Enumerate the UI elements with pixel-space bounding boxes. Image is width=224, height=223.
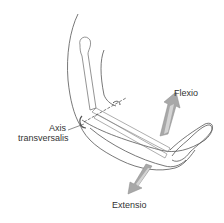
axis-label-line1: Axis [18,123,66,133]
elbow-motion-diagram: Axis transversalis Flexio Extensio [0,0,224,223]
extensio-label: Extensio [112,200,147,210]
flexio-label: Flexio [174,88,198,98]
axis-label-line2: transversalis [18,133,66,143]
humerus-bone [80,37,96,110]
forearm-outline [82,120,212,156]
forearm-lower-outline [90,128,186,167]
radius-bone [92,108,170,152]
axis-transversalis-label: Axis transversalis [18,123,66,143]
upper-arm-inner-outline [101,50,116,106]
arm-illustration [0,0,224,223]
